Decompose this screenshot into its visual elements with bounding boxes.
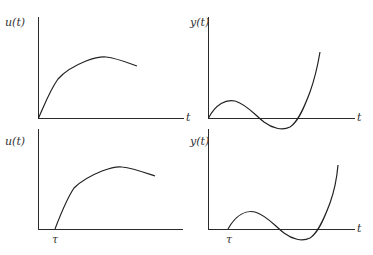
time-invariance-diagram: u(t) t y(t) t u(t) τ y(t) t τ <box>0 0 373 255</box>
delayed-input-curve <box>55 167 155 229</box>
y-axis-label: y(t) <box>189 16 209 29</box>
y-axis-label: u(t) <box>5 16 25 29</box>
panel-bottom-left: u(t) τ <box>5 129 183 246</box>
panel-top-left: u(t) t <box>5 16 191 124</box>
x-axis-label: t <box>357 111 362 124</box>
x-axis-label: t <box>186 111 191 124</box>
delayed-output-curve <box>228 165 338 240</box>
y-axis-label: u(t) <box>5 135 25 148</box>
tau-label: τ <box>52 233 59 246</box>
panel-bottom-right: y(t) t τ <box>189 129 362 246</box>
y-axis-label: y(t) <box>189 135 209 148</box>
panel-top-right: y(t) t <box>189 16 362 129</box>
x-axis-label: t <box>357 222 362 235</box>
input-curve <box>39 57 138 118</box>
output-curve <box>209 52 321 129</box>
tau-label: τ <box>226 233 233 246</box>
